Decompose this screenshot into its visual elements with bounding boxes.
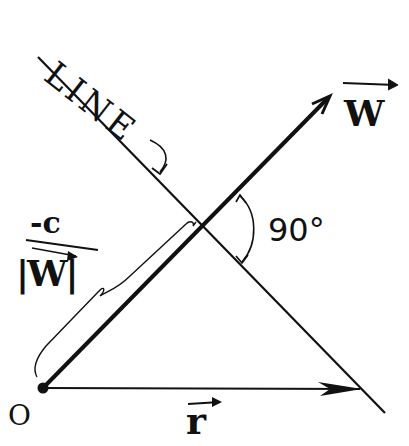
angle-arrowhead-top (236, 195, 246, 203)
distance-denominator: |W| (16, 255, 77, 291)
w-label-arrow-head (388, 79, 398, 90)
line-label-pointer-arrow (150, 140, 166, 172)
vector-r-shaft (43, 388, 360, 389)
right-angle-arc (240, 196, 254, 262)
vector-r-label: r (186, 402, 206, 440)
origin-label: O (8, 402, 31, 430)
origin-point (38, 383, 49, 394)
vector-diagram: LINE W 90° -c |W| O r (0, 0, 409, 446)
vector-w-label: W (344, 95, 384, 131)
distance-numerator: -c (30, 208, 61, 238)
r-label-arrow-head (212, 397, 222, 407)
angle-label: 90° (268, 214, 325, 246)
